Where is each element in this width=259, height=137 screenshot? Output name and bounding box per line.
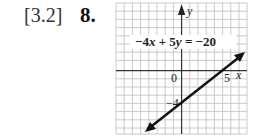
x-tick-5-label: 5 bbox=[224, 71, 230, 85]
y-axis-arrow-icon bbox=[178, 4, 185, 15]
origin-label: 0 bbox=[171, 71, 177, 85]
graph-line bbox=[148, 55, 242, 129]
equation-label: −4x + 5y = −20 bbox=[135, 34, 216, 49]
graph: −4x + 5y = −20 y x 0 5 −4 bbox=[0, 0, 259, 137]
y-tick-neg4-label: −4 bbox=[166, 96, 179, 110]
x-axis-label: x bbox=[235, 68, 242, 82]
y-axis-label: y bbox=[186, 4, 193, 18]
